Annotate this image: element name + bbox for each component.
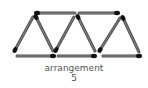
matchstick [75,13,95,51]
matchstick [33,13,53,51]
match-head-icon [91,54,97,58]
matchstick [17,54,56,58]
matchstick [58,54,97,58]
match-head-icon [114,11,120,15]
arrangement-number: 5 [0,73,148,83]
matchstick [120,14,139,52]
matchstick [103,54,142,58]
match-head-icon [136,54,142,58]
matchstick [79,11,120,15]
matchstick [53,17,74,54]
matchstick [97,18,120,54]
arrangement-label: arrangement [0,63,148,73]
match-head-icon [50,54,56,58]
matchstick [34,11,75,15]
matchstick-triangles-diagram [0,0,148,60]
matchstick [12,17,33,54]
